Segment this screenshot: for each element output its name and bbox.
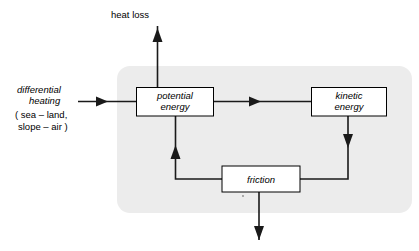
input-label-line1: differential [17,84,62,95]
node-potential-energy-label-line1: potential [156,90,194,101]
scan-speck [242,195,244,197]
node-potential-energy[interactable]: potential energy [137,88,214,117]
arrowhead-input [96,97,108,107]
node-kinetic-energy-label-line2: energy [334,101,364,112]
node-potential-energy-label-line2: energy [160,101,190,112]
input-source-label: differential heating ( sea – land, slope… [15,84,68,132]
energy-flow-diagram: potential energy kinetic energy friction… [0,0,419,251]
node-kinetic-energy-label-line1: kinetic [336,90,363,101]
node-friction-label: friction [247,174,275,185]
diagram-canvas: potential energy kinetic energy friction… [0,0,419,251]
arrowhead-friction-outflow [254,226,264,240]
arrowhead-heat-loss [153,28,163,42]
heat-loss-label: heat loss [111,9,149,20]
input-label-line2: heating [29,95,61,106]
input-label-line4: slope – air ) [18,121,68,132]
input-label-line3: ( sea – land, [15,109,67,120]
node-friction[interactable]: friction [222,166,300,192]
node-kinetic-energy[interactable]: kinetic energy [312,88,387,117]
